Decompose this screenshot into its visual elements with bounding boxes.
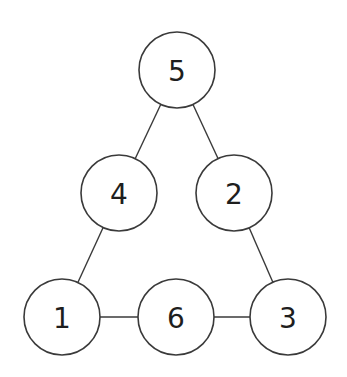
node-bottom-left: 1 (24, 279, 100, 355)
node-middle-left: 4 (81, 155, 157, 231)
node-label: 5 (168, 55, 186, 88)
node-middle-right: 2 (196, 155, 272, 231)
number-triangle-diagram: 5 4 2 1 6 3 (0, 0, 347, 377)
node-top: 5 (139, 32, 215, 108)
node-label: 4 (110, 178, 128, 211)
node-label: 2 (225, 178, 243, 211)
node-label: 3 (279, 302, 297, 335)
nodes: 5 4 2 1 6 3 (24, 32, 326, 355)
node-label: 1 (53, 302, 71, 335)
node-label: 6 (167, 302, 185, 335)
node-bottom-middle: 6 (138, 279, 214, 355)
node-bottom-right: 3 (250, 279, 326, 355)
